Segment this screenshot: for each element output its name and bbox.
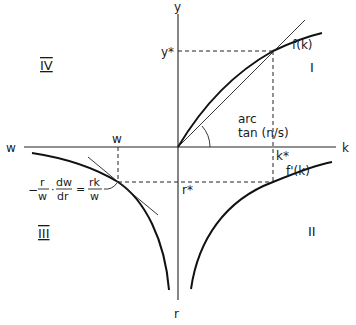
elasticity-formula: − r w · dw dr = rk w (28, 176, 102, 203)
quadrant-label-3: III (38, 226, 50, 241)
quadrant-label-1: I (310, 60, 314, 75)
axis-label-w: w (6, 141, 16, 155)
factor-price-frontier-curve (32, 153, 169, 290)
four-quadrant-growth-diagram: y k w r y* k* r* w f(k) f'(k) arc tan (n… (0, 0, 356, 325)
formula-equals: = (76, 183, 85, 196)
formula-frac2-den: dr (57, 190, 69, 203)
angle-label-tan: tan (n/s) (238, 126, 289, 140)
w-label: w (112, 132, 122, 146)
axis-label-y: y (174, 0, 181, 14)
axis-label-k: k (342, 141, 349, 155)
k-star-label: k* (276, 149, 289, 163)
r-star-label: r* (182, 183, 193, 197)
formula-minus: − (28, 183, 38, 197)
formula-frac1-num: r (40, 176, 45, 189)
axis-label-r: r (174, 307, 179, 321)
angle-label-arc: arc (238, 112, 257, 126)
f-k-label: f(k) (292, 38, 313, 52)
quadrant-label-4: IV (40, 58, 53, 73)
f-prime-k-label: f'(k) (286, 164, 310, 178)
quadrant-label-2: II (308, 224, 316, 239)
formula-frac1-den: w (38, 190, 47, 203)
formula-dot: · (51, 183, 55, 196)
y-star-label: y* (161, 45, 174, 59)
angle-arc (202, 126, 210, 147)
formula-frac2-num: dw (56, 176, 72, 189)
formula-rhs-den: w (90, 190, 99, 203)
formula-rhs-num: rk (89, 176, 101, 189)
elasticity-pointer (104, 183, 117, 189)
